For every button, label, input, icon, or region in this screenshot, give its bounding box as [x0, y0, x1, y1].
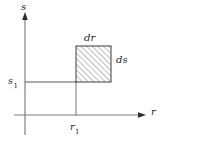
r1-base: r	[70, 121, 75, 132]
figure-canvas: s r s1 r1 dr ds	[0, 0, 207, 143]
diagram-vector-layer	[0, 0, 207, 143]
arrow-right-icon	[138, 112, 146, 118]
r-axis-line	[14, 112, 146, 118]
hatched-area-element	[76, 46, 111, 82]
r1-subscript: 1	[75, 128, 79, 136]
s1-tick-label: s1	[8, 76, 17, 89]
dr-dimension-label: dr	[84, 33, 95, 43]
r1-tick-label: r1	[70, 122, 79, 135]
s1-subscript: 1	[13, 82, 17, 90]
ds-dimension-label: ds	[116, 55, 128, 65]
s-axis-line	[22, 12, 28, 135]
s-axis-label: s	[21, 2, 26, 12]
r-axis-label: r	[151, 107, 156, 117]
arrow-up-icon	[22, 12, 28, 20]
